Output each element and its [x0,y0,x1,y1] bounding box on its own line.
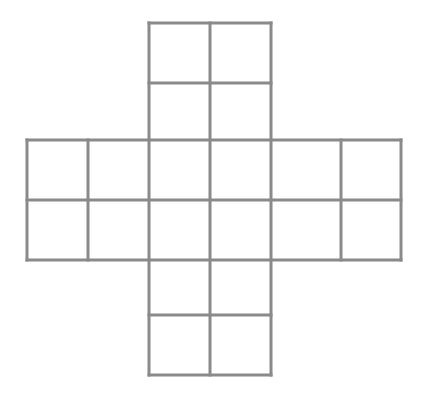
grid-lines [27,23,401,375]
cross-grid-diagram [0,0,422,394]
